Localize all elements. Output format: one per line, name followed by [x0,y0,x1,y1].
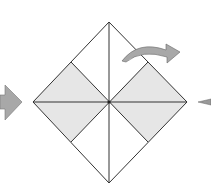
center-point [107,100,110,103]
origami-diagram [0,0,211,187]
push-arrow-left-icon [0,85,22,120]
fold-over-arrow-icon [122,44,180,63]
inward-arrow-right-icon [198,99,211,105]
